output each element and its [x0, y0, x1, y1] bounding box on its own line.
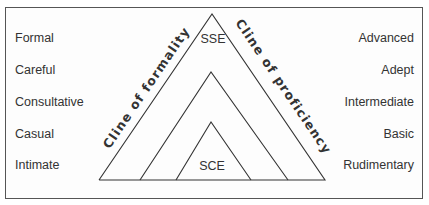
- proficiency-level-intermediate: Intermediate: [345, 95, 414, 109]
- formality-level-formal: Formal: [15, 31, 54, 45]
- formality-level-consultative: Consultative: [15, 95, 84, 109]
- proficiency-level-adept: Adept: [381, 63, 414, 77]
- proficiency-level-rudimentary: Rudimentary: [343, 158, 414, 172]
- top-triangle-label: SSE: [200, 32, 225, 46]
- cline-of-formality-label: Cline of formality: [100, 24, 193, 151]
- formality-level-intimate: Intimate: [15, 158, 59, 172]
- formality-level-careful: Careful: [15, 63, 55, 77]
- formality-level-casual: Casual: [15, 127, 54, 141]
- bottom-triangle-label: SCE: [199, 159, 225, 173]
- cline-of-proficiency-label: Cline of proficiency: [233, 16, 335, 157]
- proficiency-level-advanced: Advanced: [358, 31, 414, 45]
- proficiency-level-basic: Basic: [383, 127, 414, 141]
